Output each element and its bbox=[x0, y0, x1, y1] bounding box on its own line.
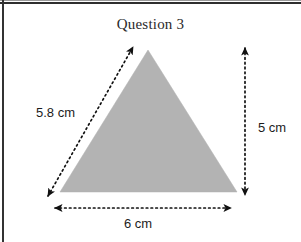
slant-dimension-label: 5.8 cm bbox=[36, 105, 75, 120]
height-dimension-label: 5 cm bbox=[258, 120, 286, 135]
triangle-diagram bbox=[0, 0, 301, 242]
base-dimension-label: 6 cm bbox=[124, 216, 152, 231]
triangle-shape bbox=[60, 50, 237, 192]
question-figure-page: Question 3 5.8 cm 5 cm 6 cm bbox=[0, 0, 301, 242]
